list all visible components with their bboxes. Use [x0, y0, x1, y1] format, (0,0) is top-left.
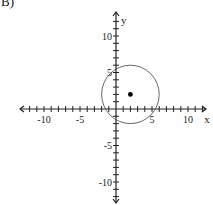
x-tick-label: 10	[183, 114, 193, 125]
x-axis-label: x	[204, 113, 210, 125]
x-tick-label: -10	[37, 114, 50, 125]
x-tick-label: -5	[76, 114, 84, 125]
y-tick-label: -10	[99, 177, 112, 188]
center-point	[128, 92, 133, 97]
y-tick-label: 10	[102, 31, 112, 42]
y-tick-label: -5	[104, 140, 112, 151]
y-axis-label: y	[121, 14, 127, 26]
coordinate-plane: -10-5510105-5-10xy	[0, 0, 213, 205]
